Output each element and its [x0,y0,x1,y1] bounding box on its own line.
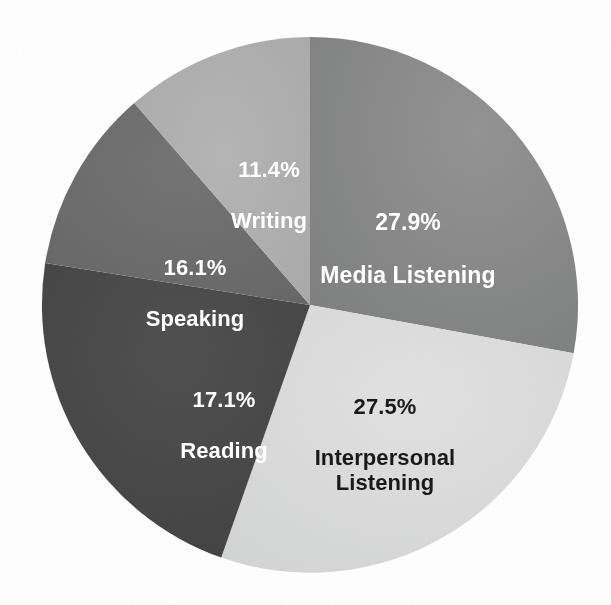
slice-name-speaking: Speaking [110,306,280,332]
slice-name-reading: Reading [140,438,308,464]
slice-name-writing: Writing [196,208,342,234]
slice-name-interpersonal-listening: Interpersonal Listening [280,445,490,496]
pie-chart-figure: 27.9% Media Listening 27.5% Interpersona… [0,0,611,605]
slice-value-reading: 17.1% [140,387,308,413]
slice-name-media-listening: Media Listening [300,262,516,289]
slice-label-interpersonal-listening: 27.5% Interpersonal Listening [280,368,490,521]
slice-label-reading: 17.1% Reading [140,361,308,489]
slice-label-writing: 11.4% Writing [196,131,342,259]
slice-value-interpersonal-listening: 27.5% [280,394,490,420]
slice-value-writing: 11.4% [196,157,342,183]
